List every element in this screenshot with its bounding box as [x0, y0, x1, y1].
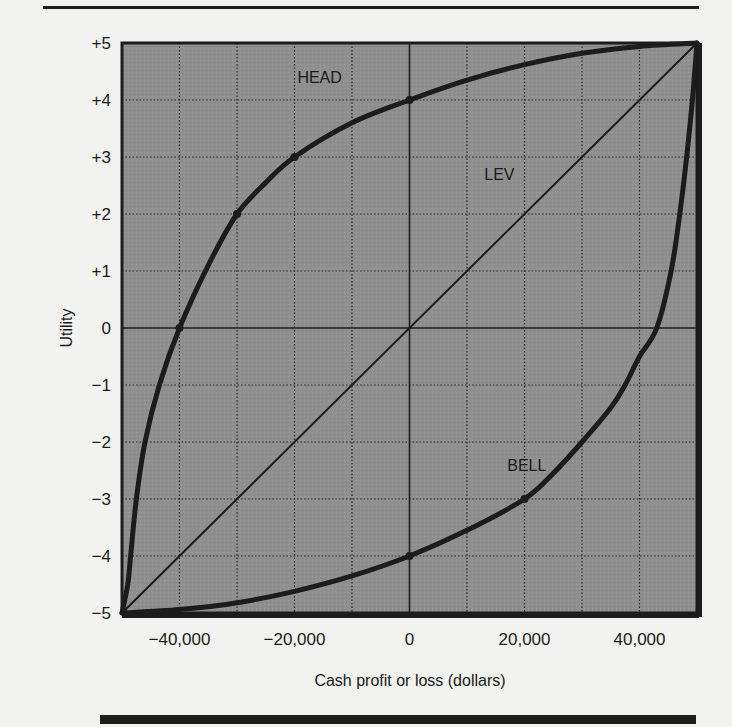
- y-axis-ticks: +5+4+3+2+10−1−2−3−4−5: [92, 34, 111, 623]
- y-tick-label: −2: [92, 433, 111, 452]
- x-tick-label: 20,000: [499, 630, 551, 649]
- y-tick-label: −5: [92, 604, 111, 623]
- head-data-point: [176, 324, 184, 332]
- y-tick-label: 0: [102, 319, 111, 338]
- y-tick-label: +2: [92, 205, 111, 224]
- y-tick-label: +5: [92, 34, 111, 53]
- y-tick-label: +3: [92, 148, 111, 167]
- head-data-point: [406, 96, 414, 104]
- utility-chart: +5+4+3+2+10−1−2−3−4−5 −40,000−20,000020,…: [0, 0, 732, 727]
- bell-data-point: [521, 495, 529, 503]
- y-tick-label: −4: [92, 547, 111, 566]
- y-tick-label: +1: [92, 262, 111, 281]
- head-data-point: [291, 153, 299, 161]
- x-axis-label: Cash profit or loss (dollars): [314, 672, 505, 689]
- x-axis-ticks: −40,000−20,000020,00040,000: [149, 630, 666, 649]
- bell-data-point: [406, 552, 414, 560]
- bell-label: BELL: [507, 457, 546, 474]
- lev-label: LEV: [484, 166, 515, 183]
- x-tick-label: 0: [405, 630, 414, 649]
- head-data-point: [233, 210, 241, 218]
- x-tick-label: 40,000: [614, 630, 666, 649]
- y-tick-label: −3: [92, 490, 111, 509]
- head-label: HEAD: [297, 69, 341, 86]
- x-tick-label: −40,000: [149, 630, 211, 649]
- x-tick-label: −20,000: [264, 630, 326, 649]
- y-tick-label: +4: [92, 91, 111, 110]
- y-axis-label: Utility: [58, 308, 75, 347]
- y-tick-label: −1: [92, 376, 111, 395]
- bottom-rule: [100, 715, 696, 724]
